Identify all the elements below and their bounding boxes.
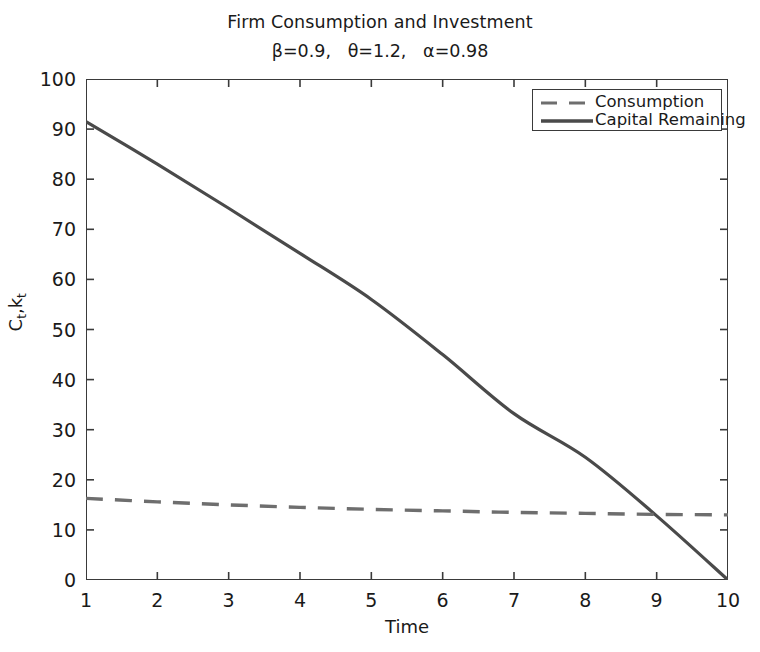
y-axis-tick-10: 10 — [52, 519, 76, 541]
y-axis-tick-40: 40 — [52, 369, 76, 391]
chart-subtitle: β=0.9, θ=1.2, α=0.98 — [0, 41, 760, 61]
series-line-consumption — [86, 498, 728, 515]
y-axis-tick-70: 70 — [52, 218, 76, 240]
x-axis-tick-9: 9 — [651, 589, 663, 611]
y-axis-tick-0: 0 — [64, 569, 76, 591]
legend-item-consumption[interactable]: Consumption — [533, 93, 721, 111]
legend-swatch-dashed-line — [539, 95, 595, 109]
chart-title: Firm Consumption and Investment — [0, 12, 760, 32]
x-axis-tick-4: 4 — [294, 589, 306, 611]
plot-area — [86, 79, 728, 580]
x-axis-tick-8: 8 — [579, 589, 591, 611]
x-axis-tick-6: 6 — [437, 589, 449, 611]
y-axis-tick-100: 100 — [40, 68, 76, 90]
y-axis-title-k: ,k — [5, 298, 26, 314]
x-axis-tick-3: 3 — [223, 589, 235, 611]
x-axis-title: Time — [86, 616, 728, 637]
x-axis-tick-labels: 12345678910 — [86, 589, 728, 615]
y-axis-tick-30: 30 — [52, 419, 76, 441]
legend-label-capital-remaining: Capital Remaining — [595, 111, 746, 129]
legend-item-capital-remaining[interactable]: Capital Remaining — [533, 111, 721, 129]
y-axis-tick-60: 60 — [52, 268, 76, 290]
chart-figure: Firm Consumption and Investment β=0.9, θ… — [0, 0, 760, 652]
x-axis-tick-1: 1 — [80, 589, 92, 611]
chart-legend[interactable]: Consumption Capital Remaining — [532, 89, 722, 131]
x-axis-tick-5: 5 — [365, 589, 377, 611]
x-axis-tick-10: 10 — [716, 589, 740, 611]
y-axis-tick-80: 80 — [52, 168, 76, 190]
legend-swatch-solid-line — [539, 113, 595, 127]
legend-label-consumption: Consumption — [595, 93, 704, 111]
x-axis-tick-7: 7 — [508, 589, 520, 611]
y-axis-tick-90: 90 — [52, 118, 76, 140]
axis-ticks — [86, 79, 728, 580]
y-axis-title-sub-t1: t — [15, 314, 29, 319]
y-axis-title-sub-t2: t — [15, 293, 29, 298]
x-axis-tick-2: 2 — [151, 589, 163, 611]
y-axis-tick-50: 50 — [52, 319, 76, 341]
y-axis-title: Ct,kt — [5, 267, 30, 357]
y-axis-tick-20: 20 — [52, 469, 76, 491]
chart-curves — [86, 79, 728, 580]
y-axis-title-c: C — [5, 319, 26, 332]
